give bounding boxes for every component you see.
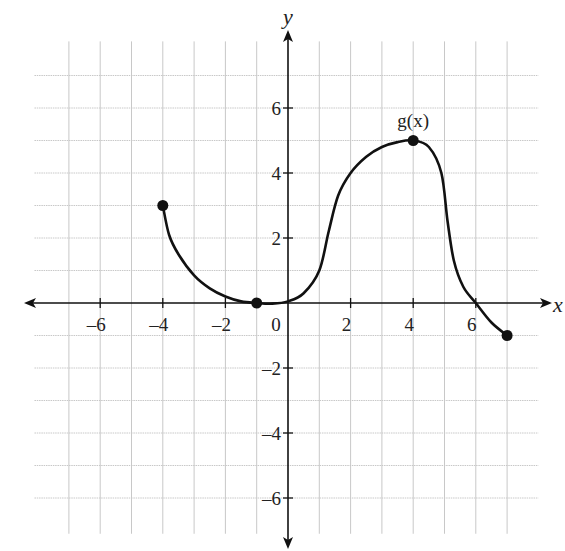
- x-tick-label: 6: [467, 314, 477, 335]
- point-marker: [157, 200, 168, 211]
- y-tick-label: –4: [261, 423, 282, 444]
- y-tick-label: 2: [272, 228, 282, 249]
- y-axis-label: y: [281, 4, 293, 29]
- point-marker: [502, 330, 513, 341]
- x-tick-label: 2: [342, 314, 352, 335]
- x-tick-label: 4: [404, 314, 414, 335]
- x-tick-label: 0: [271, 314, 281, 335]
- point-marker: [408, 135, 419, 146]
- x-tick-label: –6: [86, 314, 106, 335]
- y-tick-label: –2: [261, 358, 281, 379]
- function-label: g(x): [397, 110, 429, 132]
- function-graph: –6–4–20246–6–4–2246 x y g(x): [0, 0, 565, 551]
- y-tick-label: 4: [272, 163, 282, 184]
- y-tick-label: 6: [272, 98, 282, 119]
- y-tick-label: –6: [261, 488, 281, 509]
- point-marker: [251, 298, 262, 309]
- x-axis-label: x: [552, 292, 563, 317]
- x-tick-label: –4: [148, 314, 169, 335]
- x-tick-label: –2: [211, 314, 231, 335]
